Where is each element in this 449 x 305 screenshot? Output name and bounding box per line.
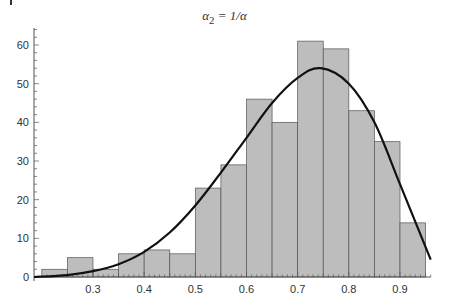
histogram-bar	[298, 41, 324, 277]
histogram-bar	[400, 223, 426, 277]
histogram-bar	[119, 254, 145, 277]
y-tick-label: 40	[17, 116, 29, 128]
x-tick-label: 0.5	[188, 283, 203, 295]
y-tick-label: 50	[17, 78, 29, 90]
histogram-chart: 01020304050600.30.40.50.60.70.80.9	[0, 0, 449, 305]
histogram-bar	[144, 250, 170, 277]
y-tick-label: 20	[17, 194, 29, 206]
x-tick-label: 0.9	[392, 283, 407, 295]
histogram-bar	[374, 142, 400, 277]
histogram-bar	[221, 165, 247, 277]
x-tick-label: 0.6	[239, 283, 254, 295]
x-tick-label: 0.8	[341, 283, 356, 295]
y-tick-label: 10	[17, 232, 29, 244]
y-tick-label: 0	[23, 271, 29, 283]
histogram-bar	[170, 254, 196, 277]
x-tick-label: 0.4	[137, 283, 152, 295]
x-tick-label: 0.3	[85, 283, 100, 295]
y-tick-label: 30	[17, 155, 29, 167]
histogram-bar	[323, 49, 349, 277]
x-tick-label: 0.7	[290, 283, 305, 295]
y-tick-label: 60	[17, 39, 29, 51]
histogram-bar	[349, 111, 375, 277]
histogram-bar	[272, 122, 298, 277]
histogram-bar	[247, 99, 273, 277]
